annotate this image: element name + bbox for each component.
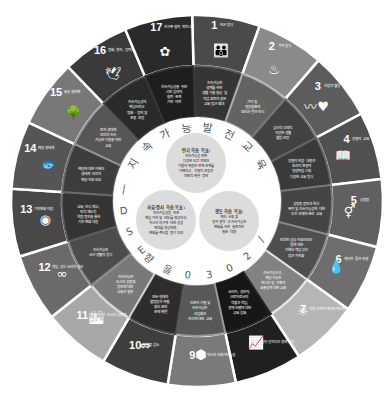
goal-inner-text: 교육과 실천 xyxy=(117,289,134,294)
goal-inner-text: 지속가능하고, xyxy=(263,270,282,275)
goal-inner-text: 재생 가능한 xyxy=(265,275,282,280)
book-icon: 📖 xyxy=(335,148,351,163)
goal-inner-text: 이해와 책임 있는 xyxy=(285,247,309,252)
goal-inner-text: 에너지 및 전환과 xyxy=(261,280,285,285)
goal-number: 12 xyxy=(38,261,50,273)
goal-inner-text: 혁신에 대한 교육 xyxy=(188,316,212,321)
objective-circle xyxy=(136,190,196,250)
goal-name: 건강과 웰빙 xyxy=(324,83,340,88)
gender-icon: ⚥ xyxy=(344,204,356,219)
objective-text: 다양한 도전 과제와 xyxy=(183,158,210,163)
goal-inner-text: 보전과 지속 xyxy=(100,132,117,137)
goal-inner-text: 양질의 학습 내용과 xyxy=(288,158,315,163)
goal-inner-text: 생활 기술 향상 및 xyxy=(202,90,228,95)
goal-inner-text: 교육 xyxy=(105,144,112,148)
sdg-wheel-diagram: 1빈곤 종식👪지속가능한생계를 위한생활 기술 향상 및직업 훈련과 같은교육 … xyxy=(0,0,392,399)
objective-title: 사회·정서 학습 목표: xyxy=(147,204,186,211)
goal-inner-text: 성평등 증진과 특히 xyxy=(293,201,319,206)
bowl-icon: ♨ xyxy=(268,62,280,77)
goal-name: 육상 생태계 xyxy=(64,89,80,94)
goal-inner-text: 기반 마련 xyxy=(167,99,181,104)
objective-text: 지속가능성 관련 xyxy=(185,153,207,158)
goal-number: 2 xyxy=(269,40,275,52)
objective-text: 정치 영역 내 지속가능한 xyxy=(212,219,246,224)
goal-inner-text: 모든 형태의 xyxy=(152,294,168,299)
cubes-icon: ⬢ xyxy=(195,347,206,362)
learning-objective-cognitive: 인지 학습 목표:지속가능성 관련다양한 도전 과제와이들의 복잡한 연계 관계… xyxy=(166,133,226,193)
objective-text: 변화를 주도할 동기 부여 xyxy=(149,230,182,235)
objective-text: 대안적 해결 방안 xyxy=(184,173,208,178)
dove-icon: 🕊 xyxy=(105,66,122,81)
goal-inner-text: 지속가능한 xyxy=(118,274,134,279)
goal-number: 1 xyxy=(211,19,217,31)
learning-objective-behavioral: 행동 학습 목표:개인, 사회 및정치 영역 내 지속가능한변화를 위한 실천적… xyxy=(199,191,259,251)
fish-icon: 🐟 xyxy=(41,156,57,171)
goal-inner-text: 불평등과 차별, xyxy=(150,299,170,304)
goal-number: 13 xyxy=(20,203,32,215)
goal-inner-text: 해양에 대한 이해와 xyxy=(78,166,105,171)
goal-number: 14 xyxy=(24,142,37,154)
goal-inner-text: 근로자로서의 xyxy=(230,294,248,299)
eye-globe-icon: ◉ xyxy=(39,212,50,227)
city-icon: 🏙 xyxy=(88,310,105,325)
objective-text: 핵심 가치 및 태도를 형성하고, xyxy=(145,215,187,220)
goal-inner-text: 지속가능성의 xyxy=(128,99,146,104)
goal-inner-text: 평생학습 기회 xyxy=(292,168,311,173)
goal-inner-text: 기아 및 xyxy=(247,99,258,104)
goal-inner-text: 물에 대한 xyxy=(290,242,304,247)
objective-text: 개인, 사회 및 xyxy=(220,214,239,219)
objective-text: 이들의 복잡한 연계 관계를 xyxy=(178,163,215,168)
goal-inner-text: 폭력 및 지속가능성에 대한 xyxy=(288,206,326,211)
goal-number: 4 xyxy=(343,133,350,145)
objective-text: 실천 역량 xyxy=(222,229,236,234)
goal-inner-text: 교육, 인식 제고, xyxy=(77,204,100,209)
goal-inner-text: 역량 증진을 통한 xyxy=(77,214,101,219)
equality-arrows-icon: ⇔ xyxy=(140,338,151,353)
heartbeat-icon: 〰♥ xyxy=(304,99,329,114)
goal-inner-text: 지속가능한 xyxy=(207,80,223,85)
goal-inner-text: 생계를 위한 xyxy=(206,85,223,90)
goal-inner-text: 심리적·신체적 xyxy=(273,125,292,130)
goal-name: 깨끗한 물과 위생 xyxy=(344,256,367,261)
goal-number: 16 xyxy=(94,44,106,56)
goal-name: 해양 생태계 xyxy=(38,145,54,150)
goal-inner-text: 접근 가치화 xyxy=(288,253,305,258)
goal-inner-text: 생태계 보전과 xyxy=(81,171,101,176)
goal-inner-text: 영양실조의 xyxy=(245,104,260,109)
flower-icon: ✿ xyxy=(160,44,171,59)
goal-name: 지구촌 협력 파트너십 xyxy=(164,24,193,29)
objective-text: 지속가능성을 위한 xyxy=(153,210,179,215)
goal-inner-text: 포용 보장 xyxy=(130,115,144,120)
goal-inner-text: 웰빙 보장 xyxy=(276,135,290,140)
goal-inner-text: 혐오 표현 xyxy=(154,304,167,309)
goal-name: 기후변화 대응 xyxy=(34,206,54,211)
goal-name: 기아 종식 xyxy=(278,43,291,48)
goal-inner-text: 지속가능한 xyxy=(93,247,109,252)
goal-inner-text: 교육 접근 확대 xyxy=(204,101,225,106)
goal-inner-text: 토지 생태계 xyxy=(100,127,117,132)
goal-inner-text: 역할과 책임, xyxy=(231,300,248,305)
goal-inner-text: 방안에 대한 xyxy=(117,284,134,289)
growth-chart-icon: 📈 xyxy=(248,335,264,350)
goal-inner-text: 직업 훈련과 같은 xyxy=(203,96,227,101)
goal-inner-text: 핵심으로서 xyxy=(129,104,144,109)
family-icon: 👪 xyxy=(213,43,229,58)
objective-text: 연대를 형성하며, xyxy=(154,225,177,230)
water-icon: 💧 xyxy=(328,259,344,274)
sdg-wheel: 1빈곤 종식👪지속가능한생계를 위한생활 기술 향상 및직업 훈련과 같은교육 … xyxy=(0,0,392,399)
goal-inner-text: 다양한 교육 방식 xyxy=(290,174,313,179)
goal-number: 3 xyxy=(315,80,321,92)
goal-inner-text: 소비 생활의 방식 xyxy=(89,252,112,257)
goal-name: 적정 가격의 깨끗한 에너지 xyxy=(309,306,345,311)
objective-circle xyxy=(166,133,226,193)
objective-text: 이해하고, 전체적 관점과 xyxy=(179,168,213,173)
objective-title: 인지 학습 목표: xyxy=(182,147,211,154)
goal-inner-text: 문제 해결 xyxy=(154,309,168,314)
goal-inner-text: 평화 · 정의 및 xyxy=(127,110,148,115)
goal-inner-text: 인적 제도적 xyxy=(80,209,96,214)
goal-inner-text: 지속가능성을 위한 xyxy=(161,84,187,89)
goal-inner-text: 건강한 생활 xyxy=(275,130,292,135)
goal-inner-text: 효과적 환경의 xyxy=(292,163,311,168)
goal-name: 양질의 교육 xyxy=(352,136,369,141)
objective-text: 자신과 지구에 대한 공감 xyxy=(149,220,183,225)
